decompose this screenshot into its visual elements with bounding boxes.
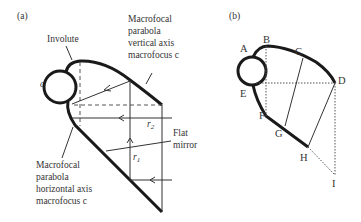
flat-mirror-label: Flat mirror — [173, 128, 198, 150]
horizontal-parabola-label: Macrofocal parabola horizontal axis macr… — [36, 160, 95, 206]
panel-a: (a) c r2 r1 Involute Macrof — [17, 11, 198, 212]
arrow-icon — [104, 85, 111, 91]
optics-diagram: (a) c r2 r1 Involute Macrof — [0, 0, 361, 222]
involute-label: Involute — [47, 34, 79, 44]
involute-pointer — [66, 46, 72, 60]
r1-label: r1 — [133, 152, 140, 164]
receiver-circle — [238, 57, 266, 85]
point-d: D — [338, 75, 346, 86]
panel-b-label: (b) — [229, 11, 240, 22]
ray-top — [72, 81, 130, 104]
panel-b: (b) A B C D E F G H I — [229, 11, 346, 189]
panel-a-label: (a) — [17, 11, 28, 22]
r2-label: r2 — [147, 119, 155, 131]
point-i: I — [332, 178, 336, 189]
point-b: B — [263, 34, 270, 45]
point-e: E — [240, 88, 246, 99]
point-c: C — [295, 46, 302, 57]
line-d-h — [308, 83, 335, 147]
point-f: F — [259, 110, 265, 121]
horizontal-parabola-pointer — [62, 127, 73, 158]
vertical-parabola-label: Macrofocal parabola vertical axis macrof… — [128, 14, 179, 60]
point-h: H — [300, 152, 308, 163]
point-g: G — [275, 128, 283, 139]
receiver-circle — [44, 71, 76, 103]
dotted-h-i — [308, 147, 335, 175]
point-a: A — [240, 43, 248, 54]
line-c-g — [285, 58, 303, 126]
vertical-parabola-pointer — [146, 73, 152, 84]
flat-mirror-pointer — [106, 141, 171, 151]
